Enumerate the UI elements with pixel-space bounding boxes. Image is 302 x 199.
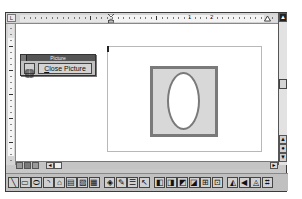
previous-page-button[interactable]: ▲ [279, 135, 287, 144]
ruler-tick [10, 112, 12, 113]
ruler-tick [156, 16, 157, 20]
send-to-back-tool-button[interactable]: ◨ [166, 177, 177, 188]
picture-toolbar-title[interactable]: Picture [21, 55, 95, 61]
bring-in-front-of-text-tool-button[interactable]: ◩ [177, 177, 188, 188]
ruler-tick [10, 28, 12, 29]
line-color-tool-button[interactable]: ✎ [116, 177, 127, 188]
outline-view-button[interactable] [32, 162, 39, 169]
format-callout-tool-button[interactable]: ▦ [89, 177, 100, 188]
normal-view-button[interactable] [16, 162, 23, 169]
vertical-ruler[interactable] [6, 24, 16, 165]
ruler-tick [261, 17, 262, 19]
ruler-tick [178, 17, 179, 19]
ruler-tick [129, 17, 130, 19]
page-layout-view-button[interactable] [24, 162, 31, 169]
ruler-tick [10, 34, 12, 35]
bring-in-front-of-text-tool-icon: ◩ [179, 178, 187, 187]
ellipse-tool-icon: ⬭ [33, 178, 40, 187]
ruler-tick [74, 17, 75, 19]
toolbar-control-menu-icon[interactable] [21, 55, 27, 61]
ruler-tick [57, 17, 58, 19]
reshape-tool-button[interactable]: ⌗ [262, 177, 273, 188]
ruler-tick [101, 17, 102, 19]
ruler-tick [10, 100, 12, 101]
scroll-up-button[interactable]: ▲ [279, 13, 287, 22]
freeform-tool-button[interactable]: ⌂ [54, 177, 65, 188]
ruler-number-2: 2 [210, 14, 213, 21]
ruler-tick [68, 17, 69, 19]
ruler-tick [10, 40, 12, 41]
ruler-tick [9, 46, 13, 47]
reset-picture-boundary-icon [25, 69, 34, 78]
indent-marker-icon[interactable] [108, 14, 114, 23]
ruler-tick [233, 17, 234, 19]
horizontal-scroll-thumb[interactable] [54, 162, 62, 169]
ellipse-shape[interactable] [167, 72, 200, 130]
arc-tool-button[interactable]: ◝ [43, 177, 54, 188]
ruler-tick [10, 136, 12, 137]
ruler-tick [255, 17, 256, 19]
freeform-tool-icon: ⌂ [57, 178, 62, 187]
ruler-tick [123, 17, 124, 19]
group-tool-icon: ⊞ [202, 178, 209, 187]
ruler-tick [10, 58, 12, 59]
send-behind-text-tool-icon: ◪ [190, 178, 198, 187]
reset-picture-boundary-button[interactable] [24, 63, 35, 74]
ungroup-tool-button[interactable]: ⊡ [212, 177, 223, 188]
fill-color-tool-icon: ◈ [107, 178, 113, 187]
ruler-tick [79, 17, 80, 19]
select-drawing-objects-tool-icon: ↖ [141, 178, 148, 187]
select-drawing-objects-tool-button[interactable]: ↖ [139, 177, 150, 188]
right-indent-marker-icon[interactable] [264, 15, 271, 22]
line-tool-button[interactable]: ╲ [8, 177, 19, 188]
vertical-scrollbar[interactable]: ▲ ▲ ● ▼ [278, 13, 287, 165]
rectangle-shape[interactable] [150, 66, 218, 137]
fill-color-tool-button[interactable]: ◈ [104, 177, 115, 188]
ruler-tick [10, 52, 12, 53]
ruler-tick [134, 17, 135, 19]
vertical-scroll-thumb[interactable] [279, 79, 287, 89]
ruler-tick [162, 17, 163, 19]
rectangle-tool-icon: ▭ [21, 178, 29, 187]
ruler-tick [195, 17, 196, 19]
ellipse-tool-button[interactable]: ⬭ [31, 177, 42, 188]
text-box-tool-button[interactable]: ▤ [66, 177, 77, 188]
line-color-tool-icon: ✎ [118, 178, 125, 187]
ruler-tick [63, 17, 64, 19]
text-box-tool-icon: ▤ [67, 178, 75, 187]
ruler-tick [173, 17, 174, 19]
tab-stop-left-icon[interactable]: L [7, 14, 16, 22]
ruler-tick [30, 17, 31, 19]
scroll-left-button[interactable]: ◄ [46, 162, 54, 169]
insertion-point [107, 46, 109, 52]
close-picture-button[interactable]: Close Picture [38, 63, 92, 74]
format-callout-tool-icon: ▦ [90, 178, 98, 187]
ruler-tick [10, 154, 12, 155]
horizontal-scrollbar[interactable]: ◄ ► [16, 161, 278, 169]
picture-toolbar[interactable]: Picture Close Picture [20, 54, 96, 76]
scroll-right-button[interactable]: ► [270, 162, 278, 169]
ruler-tick [167, 17, 168, 19]
send-behind-text-tool-button[interactable]: ◪ [189, 177, 200, 188]
ruler-tick [200, 17, 201, 19]
rotate-right-tool-button[interactable]: ◬ [250, 177, 261, 188]
arc-tool-icon: ◝ [47, 178, 50, 187]
flip-horizontal-tool-button[interactable]: ◭ [227, 177, 238, 188]
line-tool-icon: ╲ [11, 178, 16, 187]
ruler-tick [10, 82, 12, 83]
ruler-tick [222, 17, 223, 19]
flip-vertical-tool-button[interactable]: ◀ [239, 177, 250, 188]
ruler-tick [9, 70, 13, 71]
rectangle-tool-button[interactable]: ▭ [20, 177, 31, 188]
document-area[interactable] [16, 24, 278, 161]
bring-to-front-tool-button[interactable]: ◧ [154, 177, 165, 188]
line-style-tool-button[interactable]: ☰ [127, 177, 138, 188]
next-page-button[interactable]: ▼ [279, 153, 287, 162]
group-tool-button[interactable]: ⊞ [200, 177, 211, 188]
select-browse-object-button[interactable]: ● [279, 144, 287, 153]
ruler-tick [24, 17, 25, 19]
horizontal-ruler[interactable]: L 1 2 [6, 13, 278, 24]
callout-tool-button[interactable]: ▨ [77, 177, 88, 188]
ruler-tick [184, 17, 185, 19]
ruler-tick [239, 17, 240, 19]
